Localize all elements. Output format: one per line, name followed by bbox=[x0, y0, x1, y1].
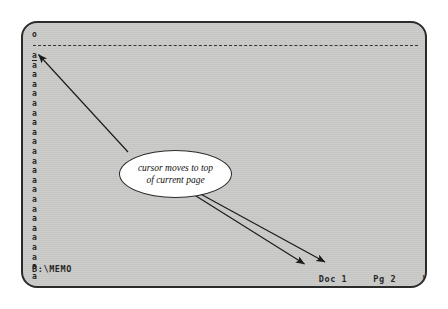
document-line: a bbox=[32, 233, 37, 243]
callout-bubble: cursor moves to top of current page bbox=[119, 150, 232, 198]
figure-container: o a aaaaaaaaaaaaaaaaaaaaaaa B:\MEMO Doc … bbox=[0, 0, 448, 309]
page-break-line bbox=[33, 45, 418, 46]
document-line: a bbox=[32, 224, 37, 234]
document-line: a bbox=[32, 70, 37, 80]
document-line: a bbox=[32, 128, 37, 138]
document-line: a bbox=[32, 166, 37, 176]
document-text-area[interactable]: o a aaaaaaaaaaaaaaaaaaaaaaa bbox=[23, 23, 425, 286]
document-line: a bbox=[32, 137, 37, 147]
document-line: a bbox=[32, 61, 37, 71]
wordperfect-screen: o a aaaaaaaaaaaaaaaaaaaaaaa B:\MEMO Doc … bbox=[21, 21, 427, 288]
status-ln: Ln 1 bbox=[422, 274, 427, 284]
document-line: a bbox=[32, 118, 37, 128]
callout-label: cursor moves to top of current page bbox=[134, 162, 217, 186]
document-line: a bbox=[32, 109, 37, 119]
document-line: a bbox=[32, 243, 37, 253]
document-line: a bbox=[32, 205, 37, 215]
status-pg: Pg 2 bbox=[373, 274, 396, 284]
document-line-above-break: o bbox=[32, 30, 37, 40]
status-position-group: Doc 1Pg 2Ln 1Pos 10 bbox=[273, 264, 427, 288]
status-doc: Doc 1 bbox=[319, 274, 348, 284]
document-line: a bbox=[32, 99, 37, 109]
document-line: a bbox=[32, 80, 37, 90]
document-line: a bbox=[32, 147, 37, 157]
status-bar: B:\MEMO Doc 1Pg 2Ln 1Pos 10 bbox=[23, 264, 425, 276]
document-line: a bbox=[32, 157, 37, 167]
document-line: a bbox=[32, 89, 37, 99]
document-line: a bbox=[32, 185, 37, 195]
cursor-line[interactable]: a bbox=[32, 51, 37, 61]
document-line: a bbox=[32, 214, 37, 224]
document-line: a bbox=[32, 195, 37, 205]
document-line: a bbox=[32, 253, 37, 263]
document-line: a bbox=[32, 176, 37, 186]
status-filename: B:\MEMO bbox=[32, 264, 72, 274]
text-cursor: a bbox=[32, 51, 37, 61]
